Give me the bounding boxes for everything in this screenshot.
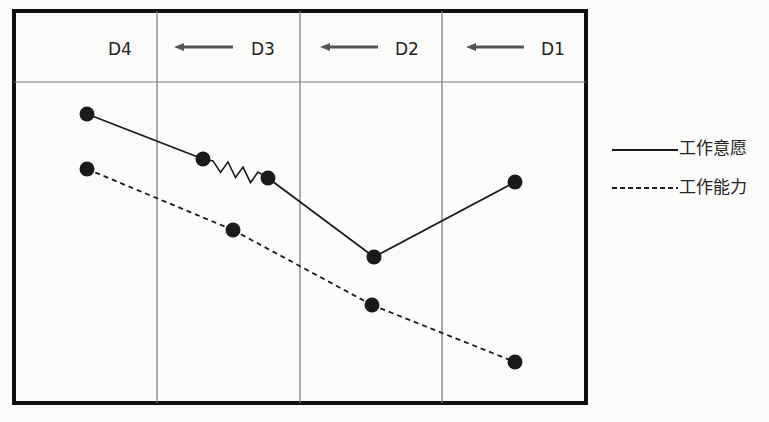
stage-label-d1: D1 (541, 41, 565, 58)
ability-line-segment (233, 230, 372, 305)
arrowhead-icon (174, 43, 184, 51)
data-point (226, 223, 241, 238)
arrowhead-icon (466, 43, 476, 51)
legend-label-ability: 工作能力 (679, 179, 747, 196)
legend-label-willingness: 工作意愿 (679, 140, 747, 157)
zigzag-connector (203, 159, 268, 183)
stage-label-d4: D4 (108, 41, 132, 58)
stage-label-d3: D3 (251, 41, 275, 58)
grid-lines (14, 11, 586, 403)
diagram: D4 D3 D2 D1 工作意愿 工作能力 (0, 0, 769, 422)
stage-arrows (174, 43, 524, 51)
data-point (196, 152, 211, 167)
data-point (508, 175, 523, 190)
diagram-canvas (0, 0, 769, 422)
data-point (367, 250, 382, 265)
data-point (365, 298, 380, 313)
legend-lines (612, 150, 678, 188)
willingness-line-segment (268, 178, 374, 257)
willingness-line-segment (87, 114, 203, 159)
data-point (80, 107, 95, 122)
data-points (80, 107, 523, 370)
arrowhead-icon (320, 43, 330, 51)
data-point (508, 355, 523, 370)
willingness-line-segment (374, 182, 515, 257)
ability-line-segment (87, 169, 233, 230)
stage-label-d2: D2 (395, 41, 419, 58)
data-point (80, 162, 95, 177)
series-lines (87, 114, 515, 362)
data-point (261, 171, 276, 186)
ability-line-segment (372, 305, 515, 362)
